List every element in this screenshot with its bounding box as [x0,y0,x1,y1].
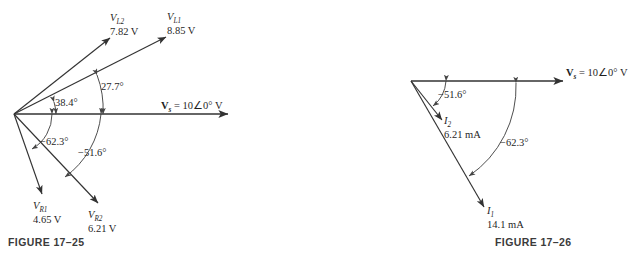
angle-arc-minus-51-6 [65,114,101,177]
vector-VR1 [14,114,42,194]
label-I2: I2 6.21 mA [444,115,481,141]
angle-label-27-7: 27.7° [101,81,124,93]
label-VL2: VL2 7.82 V [110,12,138,38]
label-VL1-symbol: VL1 [167,11,181,22]
label-I1-symbol: I1 [487,205,494,216]
label-VL2-magnitude: 7.82 V [110,26,138,37]
label-VR1: VR1 4.65 V [33,200,61,226]
vector-VL1 [14,37,166,114]
figure-17-26: Vs = 10∠0° V I2 6.21 mA I1 14.1 mA −51.6… [330,0,643,256]
angle-label-minus-51-6: −51.6° [438,89,467,101]
label-Vs-symbol: Vs [161,100,171,111]
label-VR2-symbol: VR2 [88,209,102,220]
label-Vs: Vs = 10∠0° V [161,100,223,114]
angle-label-38-4: 38.4° [55,97,78,109]
figure-17-25: VL2 7.82 V VL1 8.85 V Vs = 10∠0° V VR1 4… [0,0,330,256]
label-VL1: VL1 8.85 V [167,11,195,37]
label-Vs-value: = 10∠0° V [579,67,628,78]
label-Vs-symbol: Vs [566,67,576,78]
label-I1-magnitude: 14.1 mA [487,219,524,230]
label-I2-symbol: I2 [444,115,451,126]
label-VR1-symbol: VR1 [33,200,47,211]
label-VR2: VR2 6.21 V [88,209,116,235]
label-VL2-symbol: VL2 [110,12,124,23]
angle-label-minus-62-3: −62.3° [500,137,529,149]
label-Vs-value: = 10∠0° V [174,100,223,111]
label-I2-magnitude: 6.21 mA [444,129,481,140]
label-VL1-magnitude: 8.85 V [167,25,195,36]
label-Vs: Vs = 10∠0° V [566,67,628,81]
label-VR2-magnitude: 6.21 V [88,223,116,234]
label-I1: I1 14.1 mA [487,205,524,231]
label-VR1-magnitude: 4.65 V [33,214,61,225]
figure-caption-17-25: FIGURE 17–25 [8,236,85,248]
figure-caption-17-26: FIGURE 17–26 [495,236,572,248]
angle-label-minus-62-3: −62.3° [40,136,69,148]
angle-label-minus-51-6: −51.6° [78,147,107,159]
